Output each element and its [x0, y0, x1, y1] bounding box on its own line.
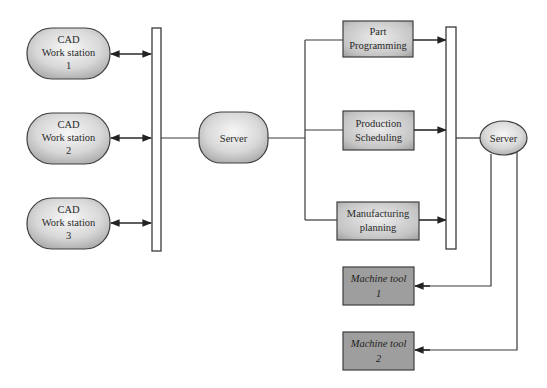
left-bus-bar: [152, 28, 161, 251]
workstation-2-line3: 2: [66, 145, 71, 156]
manufacturing-planning-box[interactable]: Manufacturing planning: [337, 202, 419, 240]
workstation-1-line3: 1: [66, 60, 71, 71]
production-scheduling-line1: Production: [355, 118, 402, 129]
workstation-3-line3: 3: [66, 230, 71, 241]
part-programming-line1: Part: [370, 26, 387, 37]
machine-tool-2-line1: Machine tool: [350, 338, 407, 349]
part-programming-box[interactable]: Part Programming: [343, 21, 413, 57]
shop-server-label: Server: [490, 133, 518, 144]
right-bus-bar: [446, 27, 456, 249]
main-server[interactable]: Server: [199, 112, 268, 163]
machine-tool-2-box[interactable]: Machine tool 2: [343, 332, 414, 370]
machine-tool-1-line1: Machine tool: [350, 273, 407, 284]
workstation-2-line2: Work station: [42, 132, 96, 143]
manufacturing-planning-line2: planning: [360, 222, 397, 233]
workstation-1-line1: CAD: [57, 34, 80, 45]
part-programming-line2: Programming: [349, 40, 407, 51]
main-server-label: Server: [220, 133, 248, 144]
cad-workstation-1[interactable]: CAD Work station 1: [27, 28, 110, 79]
manufacturing-planning-line1: Manufacturing: [347, 208, 410, 219]
production-scheduling-line2: Scheduling: [355, 132, 403, 143]
workstation-3-line1: CAD: [57, 204, 80, 215]
machine-tool-1-line2: 1: [376, 288, 381, 299]
cad-workstation-2[interactable]: CAD Work station 2: [27, 113, 110, 164]
cad-workstation-3[interactable]: CAD Work station 3: [27, 198, 110, 249]
shop-server[interactable]: Server: [480, 121, 527, 155]
workstation-3-line2: Work station: [42, 217, 96, 228]
server-to-machine-tool-2-line: [420, 152, 517, 350]
production-scheduling-box[interactable]: Production Scheduling: [343, 111, 414, 150]
machine-tool-1-box[interactable]: Machine tool 1: [343, 267, 414, 305]
machine-tool-2-line2: 2: [376, 353, 382, 364]
workstation-1-line2: Work station: [42, 47, 96, 58]
workstation-2-line1: CAD: [57, 119, 80, 130]
cad-cam-network-diagram: CAD Work station 1 CAD Work station 2 CA…: [0, 0, 547, 388]
